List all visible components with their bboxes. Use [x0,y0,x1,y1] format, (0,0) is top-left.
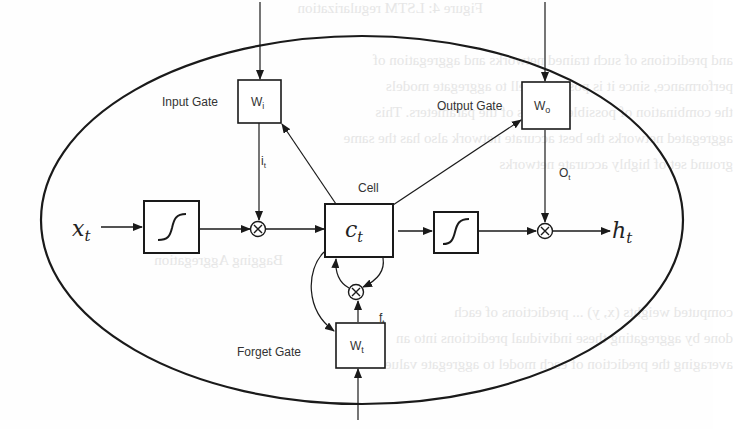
multiply-node-forget [349,285,364,300]
input-gate-box: Wi [238,80,281,123]
forget-gate-box: Wt [336,323,385,368]
cell-label: Cell [358,181,379,195]
input-gate-label: Input Gate [162,95,218,109]
output-gate-signal: Ot [559,166,571,182]
cell-box: ct [325,204,393,257]
multiply-node-input [251,222,266,237]
multiply-node-output [538,224,553,239]
input-x-label: xt [72,216,91,245]
input-gate-signal: it [261,154,267,170]
output-gate-label: Output Gate [437,99,503,113]
output-gate-box: Wo [522,82,570,129]
sigmoid-box-input [144,201,199,253]
sigmoid-box-output [434,212,478,253]
forget-gate-label: Forget Gate [237,345,301,359]
output-h-label: ht [612,218,633,247]
